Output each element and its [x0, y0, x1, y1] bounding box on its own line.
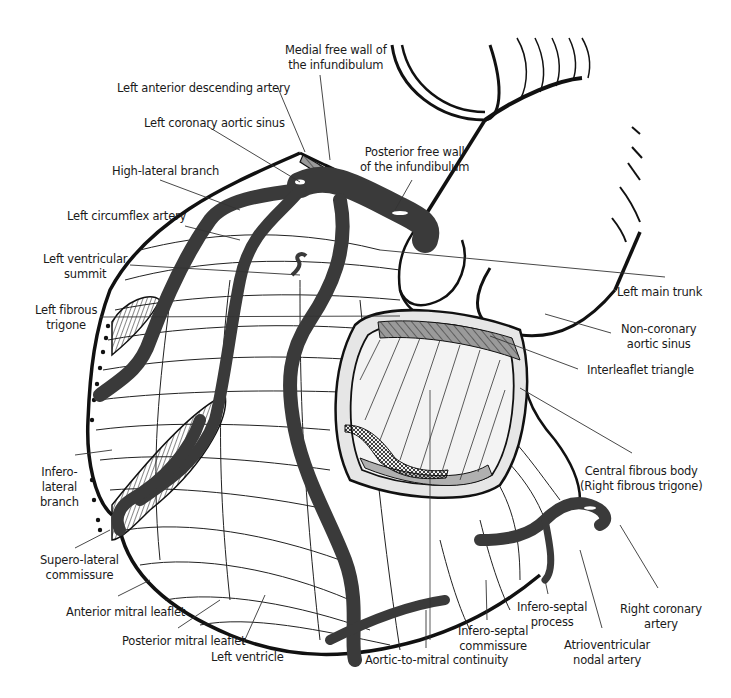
label-medial-free-wall: Medial free wall of the infundibulum: [285, 43, 387, 73]
label-central-fibrous-body: Central fibrous body (Right fibrous trig…: [580, 464, 702, 494]
label-lad: Left anterior descending artery: [117, 81, 290, 96]
label-left-ventricle: Left ventricle: [211, 650, 284, 665]
label-av-nodal: Atrioventricular nodal artery: [564, 638, 650, 668]
label-anterior-mitral: Anterior mitral leaflet: [66, 605, 185, 620]
label-supero-lateral: Supero-lateral commissure: [40, 553, 119, 583]
label-left-main: Left main trunk: [617, 285, 702, 300]
label-aortic-mitral: Aortic-to-mitral continuity: [365, 653, 508, 668]
mitral-valve: [336, 310, 527, 640]
infundibulum-tube: [392, 38, 590, 216]
label-left-coronary-sinus: Left coronary aortic sinus: [144, 116, 285, 131]
aortic-root-outline: [612, 127, 642, 290]
label-posterior-free-wall: Posterior free wall of the infundibulum: [360, 145, 469, 175]
label-high-lateral: High-lateral branch: [112, 164, 219, 179]
summit-vessel: [292, 254, 306, 275]
label-circumflex: Left circumflex artery: [67, 209, 186, 224]
label-infero-lateral: Infero- lateral branch: [40, 465, 79, 510]
label-lv-summit: Left ventricular summit: [43, 252, 127, 282]
label-infero-septal-process: Infero-septal process: [517, 600, 587, 630]
label-rca: Right coronary artery: [620, 602, 702, 632]
label-non-coronary-sinus: Non-coronary aortic sinus: [621, 322, 696, 352]
label-interleaflet: Interleaflet triangle: [587, 363, 694, 378]
label-left-fibrous-trigone: Left fibrous trigone: [35, 303, 97, 333]
label-posterior-mitral: Posterior mitral leaflet: [122, 634, 245, 649]
